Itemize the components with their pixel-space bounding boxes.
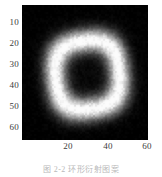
y-axis-tick-labels: 10 20 30 40 50 60 <box>0 0 19 145</box>
y-tick-label: 10 <box>0 18 19 27</box>
x-tick-label: 60 <box>142 142 151 151</box>
x-tick-label: 20 <box>63 142 72 151</box>
figure-caption: 图 2-2 环形衍射图案 <box>0 165 162 175</box>
x-tick-label: 40 <box>103 142 112 151</box>
x-axis-tick-labels: 20 40 60 <box>0 142 162 158</box>
y-tick-label: 50 <box>0 102 19 111</box>
y-tick-label: 60 <box>0 123 19 132</box>
y-tick-label: 40 <box>0 81 19 90</box>
heatmap-image <box>22 5 148 140</box>
y-tick-label: 20 <box>0 39 19 48</box>
heatmap-plot-area <box>22 5 148 140</box>
y-tick-label: 30 <box>0 60 19 69</box>
figure-container: 10 20 30 40 50 60 20 40 60 图 2-2 环形衍射图案 <box>0 0 162 177</box>
